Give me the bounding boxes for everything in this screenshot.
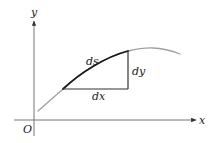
- ds-label: ds: [86, 55, 99, 68]
- arc-length-diagram: y x O ds dy dx: [0, 0, 215, 143]
- dx-label: dx: [92, 90, 106, 103]
- x-axis-label: x: [199, 114, 206, 127]
- dy-label: dy: [132, 65, 146, 78]
- origin-label: O: [23, 123, 32, 136]
- diagram-canvas: y x O ds dy dx: [0, 0, 215, 143]
- y-axis-label: y: [30, 6, 38, 19]
